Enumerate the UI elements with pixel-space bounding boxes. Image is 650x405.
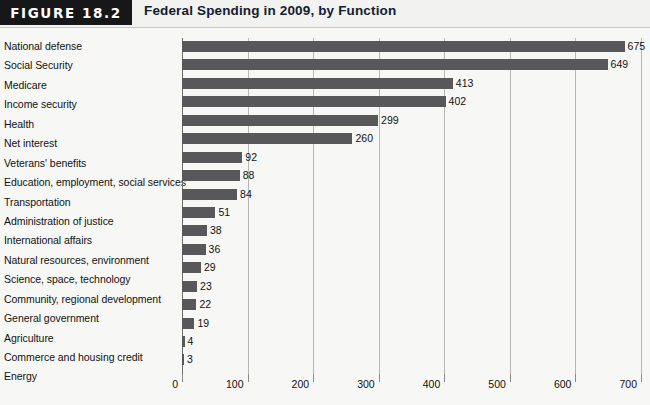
bar-value-label: 51 — [218, 205, 230, 219]
bar — [182, 281, 197, 292]
bar-value-label: 260 — [355, 131, 373, 145]
bar-value-label: 3 — [187, 352, 193, 366]
bar-value-label: 299 — [381, 113, 399, 127]
category-label: Medicare — [4, 77, 180, 96]
category-label: International affairs — [4, 232, 180, 251]
bar — [182, 244, 206, 255]
bar-value-label: 38 — [210, 223, 222, 237]
figure-number-badge: FIGURE 18.2 — [0, 0, 132, 25]
bar-value-label: 36 — [209, 242, 221, 256]
value-axis: 0100200300400500600700 — [0, 374, 650, 396]
bar — [182, 59, 608, 70]
xtick-label-400: 400 — [402, 378, 440, 390]
bar-row: 260 — [182, 130, 650, 148]
bar — [182, 336, 185, 347]
figure-title: Federal Spending in 2009, by Function — [144, 3, 396, 18]
category-axis-labels: National defenseSocial SecurityMedicareI… — [4, 38, 180, 374]
xtick-mark-300 — [379, 374, 380, 382]
bar-row: 3 — [182, 351, 650, 369]
category-label: General government — [4, 310, 180, 329]
xtick-mark-600 — [575, 374, 576, 382]
bar-value-label: 402 — [449, 94, 467, 108]
bar-row: 22 — [182, 296, 650, 314]
bar-row: 88 — [182, 167, 650, 185]
xtick-label-100: 100 — [206, 378, 244, 390]
bar — [182, 207, 215, 218]
xtick-label-700: 700 — [599, 378, 637, 390]
bar-row: 19 — [182, 315, 650, 333]
bar-row: 649 — [182, 56, 650, 74]
category-label: Net interest — [4, 135, 180, 154]
category-label: Agriculture — [4, 330, 180, 349]
bar-row: 36 — [182, 241, 650, 259]
xtick-label-0: 0 — [140, 378, 178, 390]
bar-value-label: 413 — [456, 76, 474, 90]
xtick-label-500: 500 — [468, 378, 506, 390]
bar — [182, 133, 352, 144]
bar-row: 23 — [182, 278, 650, 296]
bar-series: 6756494134022992609288845138362923221943 — [182, 38, 650, 374]
bar — [182, 152, 242, 163]
bar — [182, 225, 207, 236]
category-label: Natural resources, environment — [4, 252, 180, 271]
bar — [182, 354, 184, 365]
category-label: Income security — [4, 96, 180, 115]
bar-value-label: 92 — [245, 150, 257, 164]
category-label: Transportation — [4, 194, 180, 213]
bar — [182, 115, 378, 126]
category-label: Veterans' benefits — [4, 155, 180, 174]
bar — [182, 78, 453, 89]
bar-row: 84 — [182, 186, 650, 204]
figure-container: FIGURE 18.2 Federal Spending in 2009, by… — [0, 0, 650, 405]
category-label: Education, employment, social services — [4, 174, 180, 193]
bar-value-label: 19 — [197, 316, 209, 330]
bar — [182, 41, 625, 52]
bar-row: 29 — [182, 259, 650, 277]
xtick-label-200: 200 — [271, 378, 309, 390]
xtick-label-600: 600 — [533, 378, 571, 390]
bar-value-label: 22 — [199, 297, 211, 311]
category-label: Health — [4, 116, 180, 135]
bar — [182, 170, 240, 181]
bar-row: 413 — [182, 75, 650, 93]
category-label: Science, space, technology — [4, 271, 180, 290]
bar — [182, 318, 194, 329]
bar-value-label: 4 — [188, 334, 194, 348]
bar — [182, 299, 196, 310]
xtick-mark-100 — [248, 374, 249, 382]
category-label: Commerce and housing credit — [4, 349, 180, 368]
bar-row: 38 — [182, 222, 650, 240]
category-label: Community, regional development — [4, 291, 180, 310]
xtick-mark-400 — [444, 374, 445, 382]
bar-row: 4 — [182, 333, 650, 351]
bar-value-label: 23 — [200, 279, 212, 293]
bar-value-label: 675 — [628, 39, 646, 53]
xtick-mark-700 — [641, 374, 642, 382]
bar — [182, 262, 201, 273]
bar-row: 675 — [182, 38, 650, 56]
bar-value-label: 88 — [243, 168, 255, 182]
bar-row: 51 — [182, 204, 650, 222]
bar-row: 92 — [182, 149, 650, 167]
xtick-label-300: 300 — [337, 378, 375, 390]
xtick-mark-200 — [313, 374, 314, 382]
header-divider — [0, 27, 650, 28]
figure-number-label: FIGURE 18.2 — [10, 4, 122, 21]
bar-row: 402 — [182, 93, 650, 111]
bar — [182, 96, 446, 107]
xtick-mark-500 — [510, 374, 511, 382]
category-label: National defense — [4, 38, 180, 57]
figure-header: FIGURE 18.2 Federal Spending in 2009, by… — [0, 0, 650, 27]
bar — [182, 189, 237, 200]
bar-row: 299 — [182, 112, 650, 130]
bar-value-label: 649 — [611, 57, 629, 71]
bar-value-label: 84 — [240, 187, 252, 201]
category-label: Administration of justice — [4, 213, 180, 232]
category-label: Social Security — [4, 57, 180, 76]
xtick-mark-0 — [182, 374, 183, 382]
bar-value-label: 29 — [204, 260, 216, 274]
